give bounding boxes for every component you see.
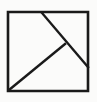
- diagonal-top-to-right-line: [42, 13, 88, 67]
- diagonal-junction-to-bottom-left-line: [9, 44, 65, 90]
- geometric-figure: [0, 0, 97, 102]
- figure-container: [0, 0, 97, 102]
